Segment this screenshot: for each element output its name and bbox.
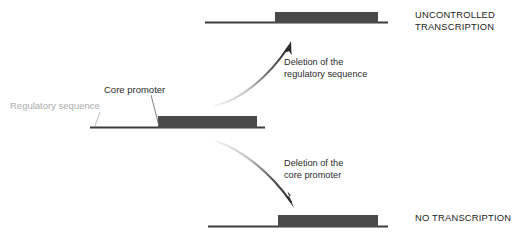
arrow-core-promoter-deletion <box>216 141 294 208</box>
regulatory-sequence-label: Regulatory sequence <box>10 100 100 113</box>
annotation-core-promoter-deletion: Deletion of the core promoter <box>284 157 343 181</box>
truncated-gene-box <box>278 215 378 227</box>
core-promoter-label: Core promoter <box>104 84 165 97</box>
gene-regulation-diagram: Core promoter Regulatory sequence Deleti… <box>0 0 520 243</box>
construct-regulatory-deleted <box>205 12 388 23</box>
construct-intact-gene <box>90 95 265 128</box>
annotation-regulatory-deletion: Deletion of the regulatory sequence <box>284 56 367 80</box>
outcome-no-transcription: NO TRANSCRIPTION <box>415 212 511 224</box>
outcome-uncontrolled-transcription: UNCONTROLLED TRANSCRIPTION <box>415 9 495 34</box>
core-promoter-gene-box <box>275 12 378 23</box>
construct-core-promoter-deleted <box>208 215 388 227</box>
arrow-head <box>287 192 294 208</box>
core-promoter-gene-box <box>158 116 257 128</box>
arrow-curve <box>215 46 289 106</box>
arrow-curve <box>216 141 291 202</box>
core-promoter-leader-line <box>151 95 159 126</box>
regulatory-sequence-leader-line <box>95 112 100 126</box>
diagram-graphics-layer <box>0 0 520 243</box>
arrow-head <box>285 41 292 55</box>
arrow-regulatory-deletion <box>215 41 292 106</box>
